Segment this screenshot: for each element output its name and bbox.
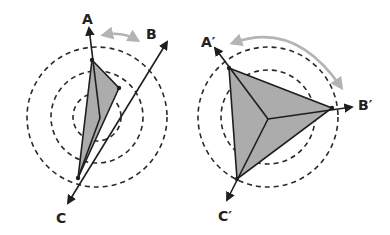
left-rotation-arrow-icon: [104, 34, 137, 40]
right-label-a: A′: [201, 34, 216, 50]
diagram-canvas: A B C A′ B′ C′: [0, 0, 390, 235]
left-label-a: A: [82, 11, 93, 27]
right-point-b: [330, 106, 334, 110]
left-point-a: [90, 58, 94, 62]
right-diagram: A′ B′ C′: [198, 34, 373, 224]
left-label-c: C: [56, 210, 66, 226]
left-label-b: B: [146, 26, 157, 42]
right-label-c: C′: [218, 208, 232, 224]
right-triangle: [229, 68, 332, 179]
right-label-b: B′: [358, 97, 373, 113]
left-point-b: [117, 86, 121, 90]
left-point-c: [76, 176, 80, 180]
left-diagram: A B C: [27, 11, 167, 226]
right-point-c: [235, 177, 239, 181]
left-axis-b-c-arrow-icon: [68, 42, 167, 203]
right-point-a: [227, 66, 231, 70]
